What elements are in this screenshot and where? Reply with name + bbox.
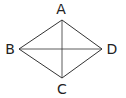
edge-ab <box>19 20 62 49</box>
vertex-label-a: A <box>56 1 66 17</box>
rhombus-diagram: A B C D <box>0 0 126 98</box>
edge-bc <box>19 49 62 78</box>
rhombus-diagonals <box>19 20 102 78</box>
edge-cd <box>62 49 102 78</box>
vertex-label-c: C <box>57 81 67 97</box>
vertex-label-d: D <box>107 41 118 57</box>
vertex-label-b: B <box>5 41 15 57</box>
edge-da <box>62 20 102 49</box>
